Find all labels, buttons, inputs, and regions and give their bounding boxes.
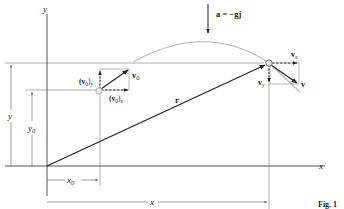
figure-caption: Fig. 1: [318, 200, 337, 209]
x-axis-label: x: [318, 161, 323, 171]
position-vector-label: r: [175, 95, 179, 105]
acceleration-label: a = −gj: [216, 9, 241, 19]
current-particle: [266, 60, 272, 66]
y-axis-label: y: [42, 4, 47, 14]
y-dimension-label: y: [7, 111, 12, 121]
current-velocity-vector-v: [271, 65, 297, 83]
x-dimension-label: x: [149, 197, 154, 207]
current-vx-label: vx: [291, 50, 298, 60]
projectile-motion-diagram: y x y y0 x0 x r a = −gj v0 (v0)y (v0)x v…: [0, 0, 344, 209]
trajectory-curve: [133, 42, 266, 62]
initial-velocity-label: v0: [132, 70, 140, 81]
initial-vx-label: (v0)x: [109, 94, 124, 104]
current-velocity-label: v: [301, 79, 306, 89]
initial-velocity-vector-v0: [101, 70, 128, 89]
trajectory-tail: [270, 64, 300, 92]
initial-particle: [96, 88, 102, 94]
initial-vy-label: (v0)y: [79, 77, 94, 87]
current-vy-label: vy: [258, 78, 265, 88]
